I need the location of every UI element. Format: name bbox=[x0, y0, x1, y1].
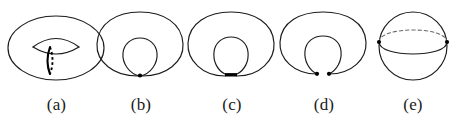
torus-hole-upper-arc bbox=[33, 39, 79, 48]
figure-panel-e: (e) bbox=[366, 0, 460, 117]
pinched-segment-outer-contour bbox=[188, 12, 274, 76]
split-cusp-node-right bbox=[327, 72, 331, 76]
pinched-torus-segment-diagram bbox=[184, 4, 280, 92]
torus-hole-lower-arc bbox=[33, 47, 79, 54]
sphere-outline bbox=[379, 12, 447, 80]
split-neck-outer-contour bbox=[280, 12, 366, 74]
figure-panel-c: (c) bbox=[184, 0, 280, 117]
surgery-sequence-figure: (a) (b) (c) bbox=[0, 0, 460, 117]
panel-label-b: (b) bbox=[93, 96, 189, 113]
split-neck-inner-contour bbox=[305, 36, 341, 74]
sphere-with-equator-diagram bbox=[366, 4, 460, 92]
meridian-curve-visible bbox=[48, 47, 51, 74]
equator-node-left bbox=[377, 40, 381, 44]
equator-hidden-arc bbox=[379, 30, 447, 42]
meridian-curve-hidden bbox=[50, 47, 53, 74]
equator-visible-arc bbox=[379, 42, 447, 54]
panel-label-c: (c) bbox=[184, 96, 280, 113]
panel-label-d: (d) bbox=[276, 96, 372, 113]
panel-label-e: (e) bbox=[366, 96, 460, 113]
pinched-outer-contour bbox=[97, 12, 183, 76]
pinched-segment-inner-contour bbox=[214, 37, 248, 74]
pinch-point-node bbox=[138, 73, 142, 77]
split-cusp-node-left bbox=[315, 72, 319, 76]
pinched-inner-contour bbox=[123, 38, 157, 76]
split-neck-diagram bbox=[276, 4, 372, 92]
figure-panel-d: (d) bbox=[276, 0, 372, 117]
equator-node-right bbox=[445, 40, 449, 44]
pinched-torus-point-diagram bbox=[93, 4, 189, 92]
torus-outer-contour bbox=[8, 16, 104, 80]
figure-panel-b: (b) bbox=[93, 0, 189, 117]
